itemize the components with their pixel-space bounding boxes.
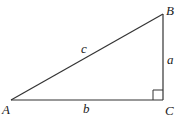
side-label-c: c <box>81 41 87 56</box>
side-label-a: a <box>167 52 174 67</box>
vertex-label-b: B <box>166 3 174 18</box>
right-triangle-diagram: A B C a b c <box>0 0 176 121</box>
vertex-label-c: C <box>165 103 174 118</box>
right-angle-marker-icon <box>153 90 163 100</box>
side-c-hypotenuse <box>11 14 163 100</box>
vertex-label-a: A <box>1 102 10 117</box>
side-label-b: b <box>83 101 90 116</box>
